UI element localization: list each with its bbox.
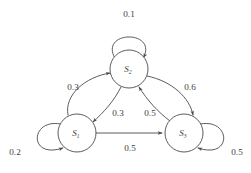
state-diagram: 0.1 0.2 0.5 0.3 0.3 0.6 0. xyxy=(0,0,251,173)
node-s2[interactable]: S2 xyxy=(110,50,148,88)
edge-label-s1-s3: 0.5 xyxy=(124,143,136,153)
edge-s1-s2-path xyxy=(68,73,110,115)
edge-label-s2-s1: 0.3 xyxy=(112,108,124,118)
edge-s3-s3: 0.5 xyxy=(198,123,243,157)
edge-label-s1-s1: 0.2 xyxy=(9,147,21,157)
node-s3-subscript: 3 xyxy=(183,133,187,139)
node-s3[interactable]: S3 xyxy=(165,114,203,152)
edge-s1-s3: 0.5 xyxy=(96,133,162,153)
node-s1[interactable]: S1 xyxy=(58,114,96,152)
edge-s2-s1: 0.3 xyxy=(93,87,124,122)
edge-s1-s2: 0.3 xyxy=(67,73,110,115)
edge-label-s2-s3: 0.6 xyxy=(184,82,196,92)
edge-s3-s2: 0.5 xyxy=(139,87,170,121)
edge-label-s3-s3: 0.5 xyxy=(231,147,243,157)
edge-s1-s1: 0.2 xyxy=(9,123,63,157)
state-diagram-canvas: 0.1 0.2 0.5 0.3 0.3 0.6 0. xyxy=(0,0,251,173)
edge-label-s2-s2: 0.1 xyxy=(123,9,135,19)
node-s2-subscript: 2 xyxy=(129,69,132,75)
edge-label-s1-s2: 0.3 xyxy=(67,82,79,92)
edge-label-s3-s2: 0.5 xyxy=(144,108,156,118)
node-s1-subscript: 1 xyxy=(77,133,80,139)
